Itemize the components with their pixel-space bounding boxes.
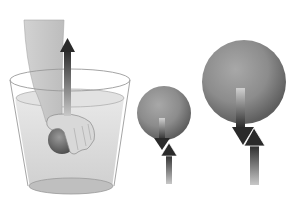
bucket-bottom [29, 178, 113, 194]
bucket-panel [10, 20, 130, 194]
small-sphere-panel [137, 86, 191, 184]
large-sphere-panel [202, 40, 286, 185]
buoyancy-diagram [0, 0, 307, 200]
buoyancy-arrow-small [161, 143, 177, 184]
